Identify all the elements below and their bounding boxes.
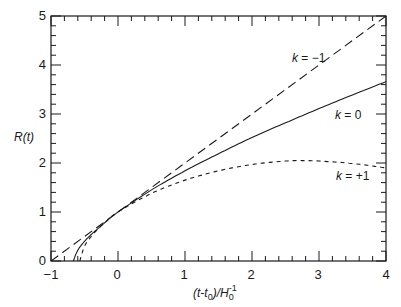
- chart: 0 1 2 3 4 5 −1 0 1 2 3 4 R(t) (t-t0)/H0-…: [0, 0, 401, 307]
- x-tick-0: 0: [113, 267, 120, 282]
- y-tick-4: 4: [39, 57, 46, 72]
- y-tick-3: 3: [39, 106, 46, 121]
- y-tick-1: 1: [39, 204, 46, 219]
- y-axis-label: R(t): [14, 130, 34, 144]
- x-tick-labels: −1 0 1 2 3 4: [44, 267, 390, 282]
- x-tick-4: 4: [382, 267, 389, 282]
- x-tick-neg1: −1: [44, 267, 59, 282]
- y-tick-2: 2: [39, 155, 46, 170]
- y-tick-labels: 0 1 2 3 4 5: [39, 8, 46, 268]
- y-tick-0: 0: [39, 253, 46, 268]
- annotation-k-minus-1: k = −1: [292, 51, 326, 65]
- x-tick-3: 3: [314, 267, 321, 282]
- annotation-k-plus-1: k = +1: [336, 169, 370, 183]
- x-axis-label: (t-t0)/H0-1: [193, 283, 237, 302]
- y-tick-5: 5: [39, 8, 46, 23]
- x-tick-1: 1: [180, 267, 187, 282]
- x-tick-2: 2: [247, 267, 254, 282]
- annotation-k-0: k = 0: [335, 108, 362, 122]
- curve-k-minus-1: [51, 16, 386, 261]
